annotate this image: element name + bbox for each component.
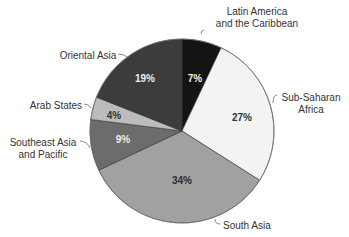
pct-label-oriental-asia: 19%: [135, 73, 155, 84]
category-label-line: and the Caribbean: [216, 18, 298, 29]
pct-label-south-asia: 34%: [172, 175, 192, 186]
leader-line-oriental-asia: [118, 54, 127, 57]
category-label-line: Africa: [298, 104, 324, 115]
pie-slices: [90, 39, 274, 223]
leader-line-southeast-asia-and-pacific: [80, 141, 90, 148]
category-label-line: Oriental Asia: [60, 50, 117, 61]
leader-line-sub-saharan-africa: [273, 95, 277, 103]
category-label-latin-america-and-the-caribbean: Latin Americaand the Caribbean: [216, 6, 298, 30]
category-label-line: Arab States: [30, 100, 82, 111]
leader-line-arab-states: [84, 104, 91, 108]
category-label-line: South Asia: [223, 220, 271, 231]
category-label-line: Southeast Asia: [10, 137, 77, 148]
category-label-south-asia: South Asia: [223, 220, 271, 231]
pct-label-sub-saharan-africa: 27%: [232, 112, 252, 123]
category-label-line: Latin America: [227, 6, 288, 17]
leader-line-south-asia: [215, 219, 220, 224]
pie-chart: 7%27%34%9%4%19% Latin Americaand the Car…: [0, 0, 349, 237]
category-label-line: Sub-Saharan: [282, 92, 341, 103]
category-label-oriental-asia: Oriental Asia: [60, 50, 117, 61]
leader-line-latin-america-and-the-caribbean: [201, 30, 204, 34]
category-label-line: and Pacific: [19, 149, 68, 160]
pct-label-latin-america-and-the-caribbean: 7%: [188, 73, 203, 84]
pct-label-southeast-asia-and-pacific: 9%: [116, 134, 131, 145]
category-label-arab-states: Arab States: [30, 100, 82, 111]
pct-label-arab-states: 4%: [107, 110, 122, 121]
category-label-sub-saharan-africa: Sub-SaharanAfrica: [282, 92, 341, 116]
category-label-southeast-asia-and-pacific: Southeast Asiaand Pacific: [10, 137, 77, 161]
